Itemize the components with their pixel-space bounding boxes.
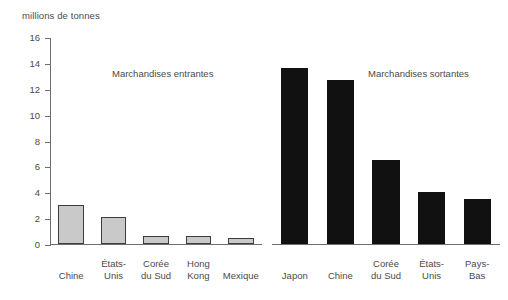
x-axis-category-label: Chine [318, 270, 364, 282]
y-axis-tick-label: 0 [10, 240, 40, 250]
bar-slot [281, 37, 308, 244]
bar [281, 68, 308, 244]
y-axis-tick-label: 8 [10, 137, 40, 147]
x-axis-line-outgoing [272, 244, 500, 245]
bar-slot [143, 37, 168, 244]
bar-slot [228, 37, 253, 244]
bar [228, 238, 253, 244]
y-axis-tick-label: 10 [10, 111, 40, 121]
y-axis-title: millions de tonnes [22, 10, 100, 21]
x-axis-category-label: Mexique [220, 270, 262, 282]
bar-chart: millions de tonnes 0246810121416 Marchan… [0, 0, 508, 300]
y-axis-tick-label: 6 [10, 162, 40, 172]
bar [418, 192, 445, 244]
x-axis-category-label: Corée du Sud [363, 258, 409, 282]
x-axis-category-label: États- Unis [409, 258, 455, 282]
bar [143, 236, 168, 244]
bar [464, 199, 491, 244]
y-axis-tick-label: 4 [10, 188, 40, 198]
bar [186, 236, 211, 244]
plot-area-outgoing [272, 37, 500, 244]
bar [101, 217, 126, 244]
bar-slot [327, 37, 354, 244]
x-axis-category-label: États- Unis [92, 258, 134, 282]
bar-slot [58, 37, 83, 244]
plot-area-incoming [50, 37, 262, 244]
x-axis-category-label: Corée du Sud [135, 258, 177, 282]
bar [58, 205, 83, 244]
bar-slot [186, 37, 211, 244]
x-axis-line-incoming [50, 244, 262, 245]
bar-slot [418, 37, 445, 244]
x-axis-category-label: Chine [50, 270, 92, 282]
y-axis-tick-label: 2 [10, 214, 40, 224]
bar-slot [101, 37, 126, 244]
y-axis-tick-label: 16 [10, 33, 40, 43]
bar-slot [372, 37, 399, 244]
y-axis-tick-label: 12 [10, 85, 40, 95]
x-axis-category-label: Pays- Bas [454, 258, 500, 282]
x-axis-category-label: Japon [272, 270, 318, 282]
x-axis-category-label: Hong Kong [177, 258, 219, 282]
y-axis-tick [45, 245, 51, 246]
bar [327, 80, 354, 244]
y-axis-tick-label: 14 [10, 59, 40, 69]
bar [372, 160, 399, 244]
bar-slot [464, 37, 491, 244]
